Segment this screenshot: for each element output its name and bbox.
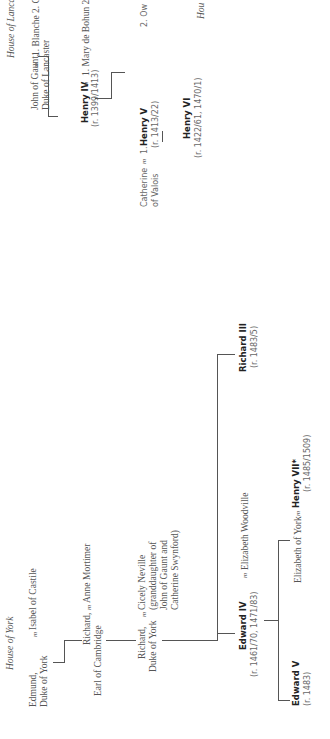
edward-iv-reign: (r. 1461/70, 1471/83) (249, 592, 260, 677)
henry-iv-wives: 1. Mary de Bohun 2. Joan of Navarre (81, 0, 92, 76)
elizabeth-of-york: Elizabeth of York (293, 516, 304, 583)
marriage-symbol: m (30, 632, 41, 637)
edward-iv-wife: Elizabeth Woodville (240, 493, 251, 570)
marriage-symbol: m (240, 573, 251, 578)
edward-iv-name: Edward IV (238, 602, 249, 650)
marriage-symbol: m (139, 159, 150, 164)
richard-iii-name: Richard III (238, 323, 249, 372)
richard-iii-reign: (r. 1483/5) (249, 326, 260, 368)
richard-york-name: Richard, (137, 627, 148, 659)
connector-line (162, 640, 217, 641)
marriage-symbol: m (31, 63, 42, 68)
cicely-neville-name: Cicely Neville (137, 555, 148, 610)
cicely-neville-note-3: Catherine Swynford) (170, 530, 181, 610)
henry-vii-reign: (r. 1485/1509) (302, 435, 313, 492)
connector-line (278, 700, 290, 701)
catherine-of-valois-name: Catherine (139, 168, 150, 207)
marriage-symbol: m (84, 605, 95, 610)
henry-v-name: Henry V (139, 108, 150, 146)
connector-line (264, 620, 278, 621)
edmund-name: Edmund, (28, 672, 39, 707)
connector-line (217, 354, 218, 641)
connector-line (217, 633, 235, 634)
catherine-of-valois-title: of Valois (150, 173, 161, 207)
connector-line (38, 56, 49, 57)
connector-line (64, 640, 65, 663)
edmund-wife: Isabel of Castile (28, 568, 39, 630)
edward-v-name: Edward V (291, 661, 302, 706)
house-york-label: House of York (5, 617, 16, 671)
connector-line (106, 640, 136, 641)
connector-line (48, 116, 58, 117)
cicely-neville-note-1: (granddaughter of (148, 542, 159, 610)
richard-york-title: Duke of York (148, 621, 159, 672)
john-of-gaunt-title: Duke of Lancaster (41, 40, 52, 110)
richard-cambridge-name: Richard, (82, 613, 93, 645)
richard-cambridge-title: Earl of Cambridge (93, 625, 104, 696)
connector-line (111, 72, 125, 73)
richard-cambridge-wife: Anne Mortimer (82, 544, 93, 603)
connector-line (278, 540, 290, 541)
henry-vi-reign: (r. 1422/61, 1470/1) (193, 78, 204, 158)
marriage-symbol: m (81, 82, 92, 87)
edward-v-reign: (r. 1483) (302, 672, 313, 706)
connector-line (111, 72, 112, 99)
marriage-symbol: m (139, 612, 150, 617)
connector-line (217, 354, 235, 355)
connector-line (278, 540, 279, 700)
connector-line (95, 98, 111, 99)
henry-v-number: 1. (139, 146, 150, 154)
connector-line (48, 57, 49, 117)
henry-v-reign: (r. 1413/22) (150, 101, 161, 148)
edmund-title: Duke of York (39, 656, 50, 707)
henry-vii-name: Henry VII* (291, 459, 302, 508)
cicely-neville-note-2: John of Gaunt and (159, 540, 170, 610)
owen-tudor-partial: 2. Ow (139, 4, 150, 27)
house-lancaster-label: House of Lancaster (6, 0, 17, 58)
john-of-gaunt-wives: 1. Blanche 2. Catherine Swynford (31, 0, 42, 56)
henry-vi-name: Henry VI (182, 98, 193, 139)
connector-line (64, 640, 82, 641)
marriage-symbol: m (293, 511, 304, 516)
connector-line (162, 131, 163, 142)
house-tudor-partial: Hou (196, 3, 207, 19)
